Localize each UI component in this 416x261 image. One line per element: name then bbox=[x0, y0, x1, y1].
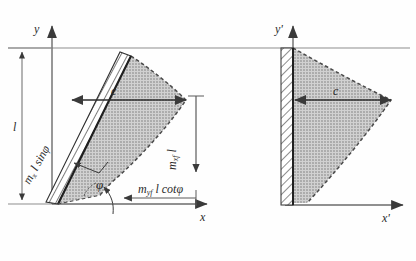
load-label-vertical-symbol: m bbox=[165, 161, 179, 170]
load-label-vertical-rest: l bbox=[165, 149, 179, 155]
dimension-label-c: c bbox=[111, 84, 116, 99]
load-label-vertical-subscript: xf bbox=[171, 156, 180, 162]
dimension-label-l: l bbox=[13, 120, 16, 135]
axis-label-x-prime: x' bbox=[382, 211, 390, 226]
vertical-support-hatch bbox=[281, 48, 293, 205]
moment-area-right bbox=[293, 48, 391, 203]
axis-label-y: y bbox=[34, 22, 39, 37]
figure-canvas: y x l c φ mx l sinφ mxf l myf l cotφ y' … bbox=[0, 0, 416, 261]
load-label-horizontal-symbol: m bbox=[138, 182, 147, 196]
load-label-horizontal: myf l cotφ bbox=[138, 182, 183, 197]
diagram-svg bbox=[0, 0, 416, 261]
angle-label-phi: φ bbox=[96, 177, 103, 193]
axis-label-y-prime: y' bbox=[275, 22, 283, 37]
axis-label-x: x bbox=[200, 210, 205, 225]
dimension-label-c-prime: c bbox=[333, 84, 338, 99]
load-label-vertical: mxf l bbox=[165, 149, 180, 170]
leader-angle bbox=[104, 187, 113, 214]
right-panel-group bbox=[281, 26, 403, 205]
load-label-horizontal-rest: l cotφ bbox=[152, 182, 183, 196]
